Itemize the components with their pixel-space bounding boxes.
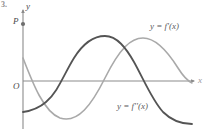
- curve-f-prime-label: y = f'(x): [150, 22, 179, 31]
- plot-area: [0, 0, 205, 130]
- curve-f-prime: [23, 38, 192, 119]
- x-axis-label: x: [198, 76, 202, 85]
- point-p-marker: [21, 22, 25, 26]
- calculus-graph-figure: 3. y x P O y = f'(x) y = f''(x): [0, 0, 205, 130]
- point-p-label: P: [13, 17, 19, 26]
- y-axis-label: y: [26, 2, 30, 11]
- curve-f-double-prime-label: y = f''(x): [117, 102, 148, 111]
- origin-label: O: [13, 82, 20, 91]
- curve-f-double-prime: [23, 36, 192, 124]
